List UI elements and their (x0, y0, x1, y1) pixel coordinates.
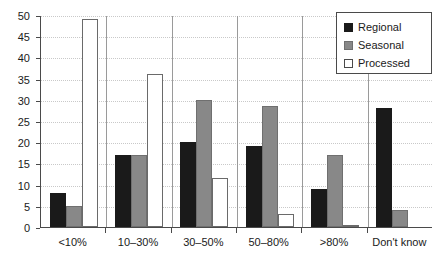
group-separator (172, 16, 173, 227)
legend-item-processed[interactable]: Processed (344, 55, 431, 72)
bar-regional-3 (246, 146, 262, 227)
bar-seasonal-4 (327, 155, 343, 227)
y-axis-tick-mark (36, 228, 40, 229)
x-axis-tick-mark (236, 228, 237, 233)
legend-item-seasonal[interactable]: Seasonal (344, 37, 431, 54)
legend-item-regional[interactable]: Regional (344, 19, 431, 36)
bar-seasonal-0 (66, 206, 82, 227)
y-axis-tick-label: 30 (0, 96, 30, 107)
bar-seasonal-3 (262, 106, 278, 227)
bar-processed-2 (212, 178, 228, 227)
chart-legend: RegionalSeasonalProcessed (336, 12, 432, 74)
bar-processed-1 (147, 74, 163, 227)
y-axis-tick-label: 15 (0, 159, 30, 170)
y-axis-tick-label: 0 (0, 223, 30, 234)
bar-processed-4 (343, 225, 359, 227)
bar-seasonal-2 (196, 100, 212, 227)
bar-regional-5 (376, 108, 392, 227)
bar-seasonal-5 (392, 210, 408, 227)
seasonal-swatch-icon (344, 41, 353, 50)
regional-swatch-icon (344, 23, 353, 32)
y-axis-tick-label: 5 (0, 202, 30, 213)
x-axis-category-label: 30–50% (171, 236, 236, 248)
bar-regional-2 (180, 142, 196, 227)
group-separator (106, 16, 107, 227)
y-axis-tick-label: 10 (0, 181, 30, 192)
y-axis-tick-label: 25 (0, 117, 30, 128)
bar-seasonal-1 (131, 155, 147, 227)
x-axis-tick-mark (301, 228, 302, 233)
x-axis-category-label: Don't know (367, 236, 432, 248)
y-axis-tick-label: 35 (0, 75, 30, 86)
x-axis-tick-mark (367, 228, 368, 233)
legend-item-label: Regional (358, 22, 401, 33)
x-axis-category-label: <10% (40, 236, 105, 248)
group-separator (302, 16, 303, 227)
x-axis-category-label: 10–30% (105, 236, 170, 248)
group-separator (237, 16, 238, 227)
bar-processed-3 (278, 214, 294, 227)
x-axis-tick-mark (171, 228, 172, 233)
bar-regional-0 (50, 193, 66, 227)
y-axis-tick-label: 20 (0, 138, 30, 149)
bar-processed-0 (82, 19, 98, 227)
x-axis-category-label: 50–80% (236, 236, 301, 248)
x-axis-tick-mark (105, 228, 106, 233)
legend-item-label: Seasonal (358, 40, 404, 51)
bar-regional-1 (115, 155, 131, 227)
processed-swatch-icon (344, 59, 353, 68)
y-axis-tick-label: 45 (0, 32, 30, 43)
legend-item-label: Processed (358, 58, 410, 69)
x-axis-category-label: >80% (301, 236, 366, 248)
bar-chart: 05101520253035404550 RegionalSeasonalPro… (0, 0, 440, 263)
bar-regional-4 (311, 189, 327, 227)
y-axis-tick-label: 50 (0, 11, 30, 22)
y-axis-tick-label: 40 (0, 53, 30, 64)
